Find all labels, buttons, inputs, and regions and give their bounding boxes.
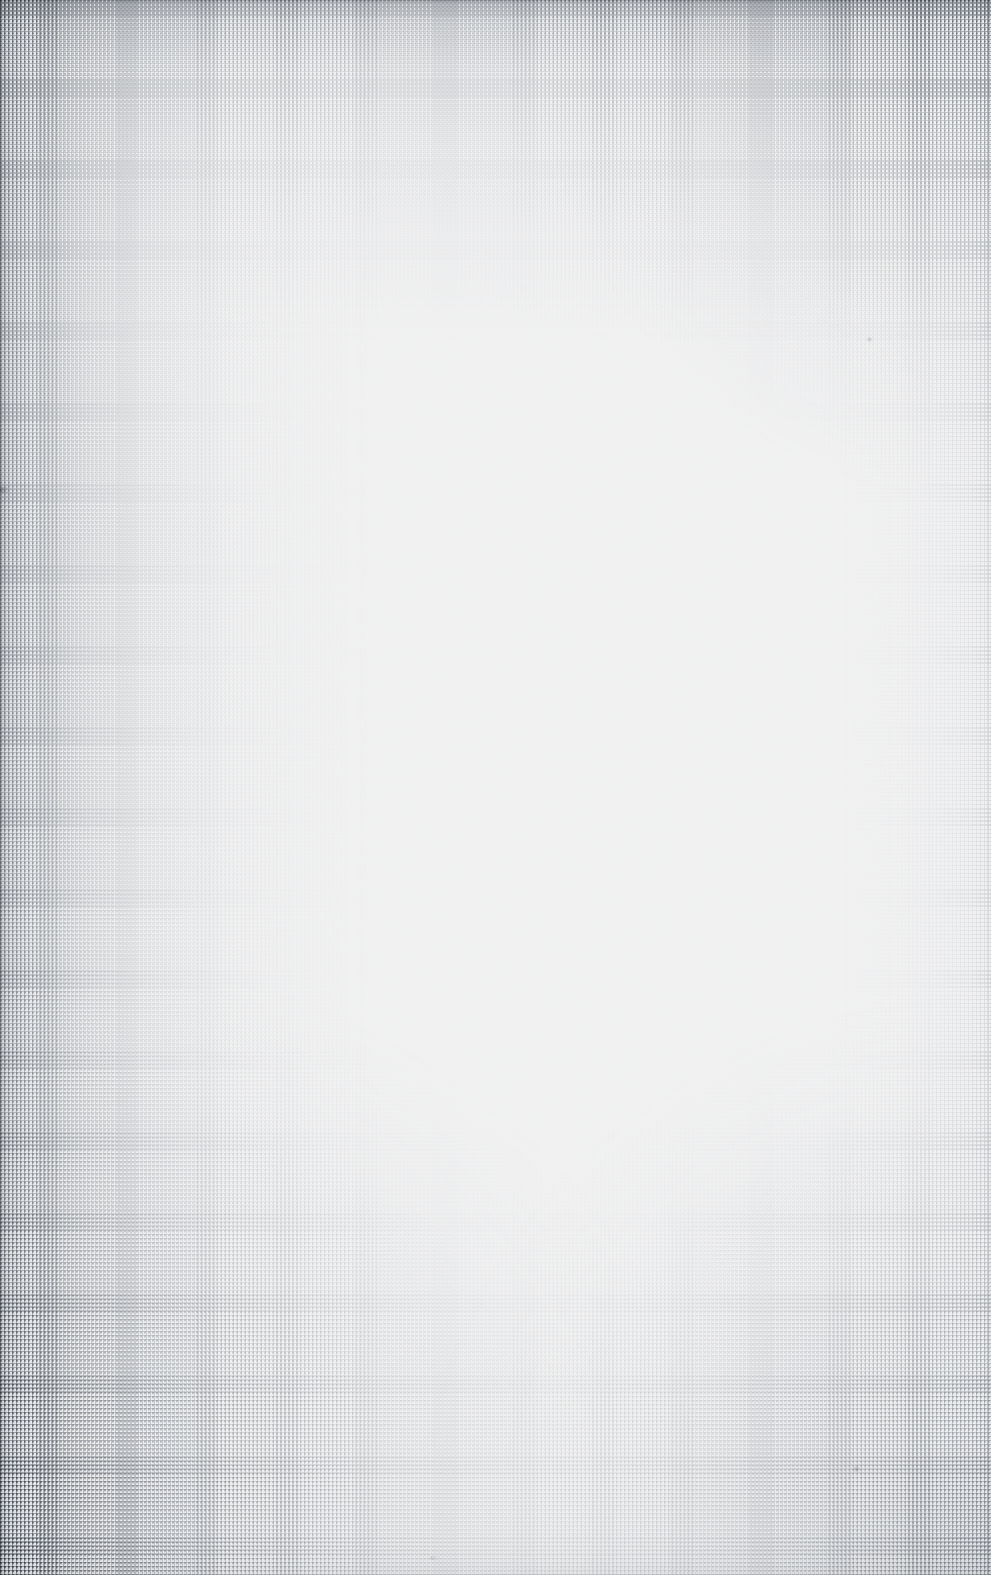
scanned-page — [0, 0, 991, 1575]
page-content-area — [0, 0, 991, 1575]
